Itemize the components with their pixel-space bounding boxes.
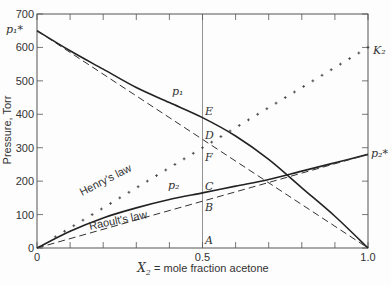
x-tick-label: 1.0 [360,251,375,263]
data-series [37,31,369,248]
henry-cross-marker [339,63,342,66]
henry-cross-marker [137,185,140,188]
henry-cross-marker [174,163,177,166]
plot-frame [37,14,368,248]
y-tick-label: 500 [16,75,34,87]
henry-cross-marker [63,230,66,233]
henry-cross-marker [164,169,167,172]
p1-star-label: p₁* [6,23,23,36]
p2-curve-label: p₂ [168,179,179,192]
henry-cross-marker [256,113,259,116]
y-tick-label: 100 [16,209,34,221]
point-f-label: F [204,151,213,164]
henry-cross-marker [201,146,204,149]
raoults-law-label: Raoult's law [88,208,148,232]
y-tick-label: 600 [16,41,34,53]
henry-cross-marker [219,135,222,138]
x-tick-label: 0 [34,251,40,263]
tick-labels: 010020030040050060070000.51.0 [16,8,376,263]
p2-star-label: p₂* [371,147,388,160]
henry-cross-marker [118,196,121,199]
p1-curve-label: p₁ [172,85,183,98]
henry-cross-marker [311,79,314,82]
henry-cross-marker [183,157,186,160]
henry-cross-marker [357,52,360,55]
henry-cross-marker [367,46,370,49]
k2-label: K₂ [372,44,386,57]
henrys-law-label: Henry's law [77,161,133,197]
henry-cross-marker [265,107,268,110]
henry-cross-marker [146,180,149,183]
y-tick-label: 400 [16,108,34,120]
henry-cross-marker [302,85,305,88]
henry-cross-marker [284,96,287,99]
y-axis-title: Pressure, Torr [1,95,13,164]
point-b-label: B [204,201,213,214]
point-a-label: A [204,234,213,247]
henry-cross-marker [82,219,85,222]
y-tick-label: 700 [16,8,34,20]
point-e-label: E [204,105,213,118]
henry-cross-marker [128,191,131,194]
henry-cross-marker [330,68,333,71]
henry-cross-marker [348,57,351,60]
henry-cross-marker [321,74,324,77]
henry-cross-marker [238,124,241,127]
y-tick-label: 300 [16,142,34,154]
henry-cross-marker [293,91,296,94]
henry-cross-marker [100,208,103,211]
henry-cross-marker [109,202,112,205]
vapor-pressure-chart: 010020030040050060070000.51.0 Pressure, … [0,0,391,285]
y-tick-label: 200 [16,175,34,187]
point-d-label: D [204,129,214,142]
henry-cross-marker [192,152,195,155]
henry-cross-marker [247,118,250,121]
henry-cross-marker [275,102,278,105]
henry-cross-marker [155,174,158,177]
henry-cross-marker [91,213,94,216]
point-c-label: C [205,180,214,193]
x-axis-title: X2 = mole fraction acetone [136,261,268,277]
henry-cross-marker [72,224,75,227]
